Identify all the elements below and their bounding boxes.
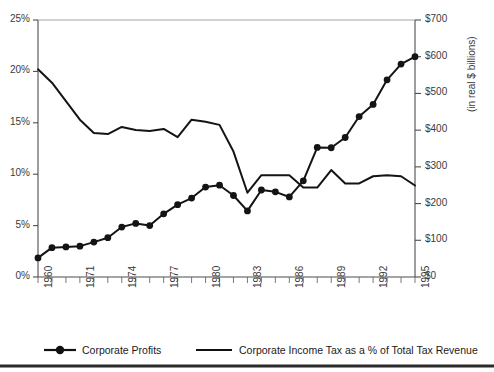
y-axis-right-tick-label: $700 (425, 13, 469, 24)
data-point-marker (258, 187, 265, 194)
y-axis-right-tick-label: $300 (425, 160, 469, 171)
series-line-1 (38, 69, 415, 192)
data-point-marker (272, 188, 279, 195)
x-axis-tick-label: 1977 (169, 266, 180, 288)
x-axis-tick-label: 1980 (211, 266, 222, 288)
data-point-marker (160, 210, 167, 217)
series-line-0 (38, 57, 415, 258)
data-point-marker (63, 243, 70, 250)
data-point-marker (370, 101, 377, 108)
y-axis-right-tick-label: $0 (425, 270, 469, 281)
x-axis-tick-label: 1974 (127, 266, 138, 288)
data-point-marker (412, 53, 419, 60)
y-axis-right-tick-label: $500 (425, 86, 469, 97)
data-point-marker (230, 192, 237, 199)
legend-item-corporate-profits: Corporate Profits (82, 344, 161, 356)
chart-container: 0%5%10%15%20%25% $0$100$200$300$400$500$… (0, 0, 494, 372)
data-point-marker (118, 224, 125, 231)
y-axis-left-tick-label: 10% (0, 167, 30, 178)
data-point-marker (342, 134, 349, 141)
y-axis-right-title: (in real $ billions) (466, 0, 477, 112)
data-point-marker (104, 234, 111, 241)
axes (38, 20, 415, 277)
y-axis-left-tick-label: 15% (0, 116, 30, 127)
data-point-marker (49, 244, 56, 251)
x-axis-tick-label: 1960 (43, 266, 54, 288)
y-axis-right-tick-label: $100 (425, 233, 469, 244)
data-point-marker (76, 243, 83, 250)
data-point-marker (35, 255, 42, 262)
data-point-marker (398, 61, 405, 68)
data-point-marker (314, 144, 321, 151)
chart-canvas (0, 0, 494, 372)
y-axis-left-tick-label: 20% (0, 64, 30, 75)
y-axis-left-tick-label: 25% (0, 13, 30, 24)
x-axis-tick-label: 1971 (85, 266, 96, 288)
series-lines (35, 53, 419, 261)
data-point-marker (384, 76, 391, 83)
data-point-marker (146, 222, 153, 229)
y-axis-right-tick-label: $200 (425, 197, 469, 208)
data-point-marker (244, 208, 251, 215)
y-axis-right-tick-label: $600 (425, 50, 469, 61)
data-point-marker (188, 195, 195, 202)
data-point-marker (328, 144, 335, 151)
y-axis-left-tick-label: 5% (0, 219, 30, 230)
data-point-marker (216, 182, 223, 189)
x-axis-tick-label: 1995 (420, 266, 431, 288)
x-axis-tick-label: 1983 (252, 266, 263, 288)
x-axis-tick-label: 1986 (294, 266, 305, 288)
data-point-marker (90, 239, 97, 246)
data-point-marker (286, 194, 293, 201)
y-axis-right-tick-label: $400 (425, 123, 469, 134)
y-axis-left-ticks (33, 20, 38, 277)
data-point-marker (174, 201, 181, 208)
data-point-marker (356, 113, 363, 120)
y-axis-left-tick-label: 0% (0, 270, 30, 281)
legend-item-corporate-income-tax: Corporate Income Tax as a % of Total Tax… (239, 344, 478, 356)
x-axis-tick-label: 1989 (336, 266, 347, 288)
data-point-marker (300, 177, 307, 184)
data-point-marker (132, 220, 139, 227)
data-point-marker (202, 184, 209, 191)
x-axis-tick-label: 1992 (378, 266, 389, 288)
